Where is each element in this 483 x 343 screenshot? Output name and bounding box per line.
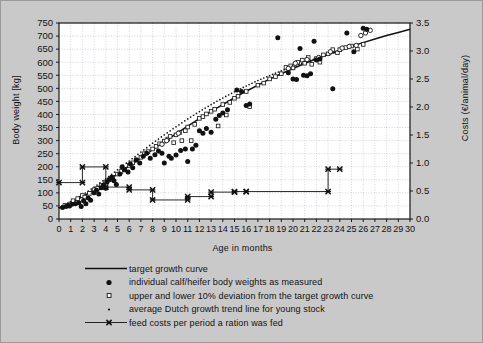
x-tick-label: 12	[194, 224, 204, 234]
data-point-deviation	[180, 139, 184, 143]
legend-item: target growth curve	[83, 262, 413, 276]
data-point-deviation	[361, 43, 365, 47]
y-tick-label-left: 350	[37, 122, 53, 133]
data-point-measured	[204, 126, 209, 131]
data-point-trend	[161, 136, 163, 138]
x-tick-label: 6	[127, 224, 132, 234]
x-tick-label: 9	[162, 224, 167, 234]
legend-label: target growth curve	[129, 264, 208, 274]
y-tick-label-right: 3.5	[416, 17, 429, 28]
data-point-measured	[330, 86, 335, 91]
data-point-deviation	[154, 145, 158, 149]
data-point-measured	[148, 156, 153, 161]
data-point-trend	[242, 87, 244, 89]
data-point-trend	[278, 71, 280, 73]
data-point-measured	[298, 46, 303, 51]
data-point-trend	[187, 118, 189, 120]
x-tick-label: 30	[405, 224, 415, 234]
data-point-trend	[143, 149, 145, 151]
y-tick-label-right: 1.5	[416, 129, 429, 140]
x-tick-label: 24	[335, 224, 345, 234]
data-point-trend	[155, 140, 157, 142]
data-point-measured	[130, 165, 135, 170]
data-point-measured	[185, 159, 190, 164]
data-point-measured	[117, 172, 122, 177]
data-point-trend	[102, 180, 104, 182]
x-tick-label: 15	[229, 224, 239, 234]
data-point-deviation	[322, 53, 326, 57]
data-point-trend	[193, 114, 195, 116]
data-point-measured	[88, 198, 93, 203]
x-tick-label: 27	[370, 224, 380, 234]
data-point-deviation	[244, 90, 248, 94]
data-point-measured	[114, 182, 119, 187]
x-tick-label: 8	[150, 224, 155, 234]
data-point-deviation	[359, 33, 363, 37]
data-point-trend	[228, 94, 230, 96]
x-tick-label: 10	[171, 224, 181, 234]
legend-label: feed costs per period a ration was fed	[129, 318, 283, 328]
chart-figure: 0501001502002503003504004505005506006507…	[0, 0, 483, 343]
y-tick-label-right: 2.5	[416, 73, 429, 84]
data-point-trend	[84, 192, 86, 194]
data-point-trend	[254, 81, 256, 83]
data-point-trend	[137, 153, 139, 155]
x-tick-label: 0	[56, 224, 61, 234]
x-tick-label: 23	[323, 224, 333, 234]
x-tick-label: 13	[206, 224, 216, 234]
data-point-deviation	[293, 61, 297, 65]
data-point-measured	[317, 57, 322, 62]
data-point-measured	[312, 39, 317, 44]
x-tick-label: 5	[115, 224, 120, 234]
data-point-trend	[275, 72, 277, 74]
data-point-trend	[201, 109, 203, 111]
data-point-measured	[209, 130, 214, 135]
data-point-trend	[280, 70, 282, 72]
y-tick-label-left: 500	[37, 83, 53, 94]
x-tick-label: 2	[80, 224, 85, 234]
y-tick-label-left: 600	[37, 57, 53, 68]
data-point-trend	[210, 104, 212, 106]
data-point-deviation	[216, 124, 220, 128]
data-point-trend	[245, 85, 247, 87]
data-point-trend	[196, 113, 198, 115]
data-point-trend	[114, 171, 116, 173]
data-point-measured	[247, 102, 252, 107]
data-point-measured	[344, 30, 349, 35]
data-point-trend	[140, 151, 142, 153]
x-axis-title: Age in months	[1, 243, 483, 253]
data-point-trend	[181, 122, 183, 124]
x-tick-label: 29	[393, 224, 403, 234]
data-point-trend	[134, 156, 136, 158]
data-point-trend	[146, 147, 148, 149]
y-tick-label-left: 400	[37, 109, 53, 120]
data-point-measured	[178, 148, 183, 153]
y-tick-label-left: 650	[37, 43, 53, 54]
data-point-trend	[125, 162, 127, 164]
data-point-deviation	[186, 125, 190, 129]
legend-item: individual calf/heifer body weights as m…	[83, 276, 413, 290]
x-tick-label: 25	[346, 224, 356, 234]
data-point-deviation	[168, 135, 172, 139]
data-point-measured	[213, 117, 218, 122]
data-point-measured	[96, 191, 101, 196]
y-axis-left-title: Body weight [kg]	[11, 62, 21, 158]
data-point-trend	[158, 138, 160, 140]
data-point-measured	[225, 107, 230, 112]
data-point-deviation	[209, 110, 213, 114]
y-tick-label-left: 200	[37, 161, 53, 172]
data-point-deviation	[172, 141, 176, 145]
data-point-deviation	[280, 72, 284, 76]
data-point-trend	[225, 96, 227, 98]
data-point-deviation	[151, 147, 155, 151]
data-point-deviation	[198, 117, 202, 121]
y-tick-label-left: 550	[37, 70, 53, 81]
data-point-measured	[193, 143, 198, 148]
y-tick-label-right: 2.0	[416, 101, 429, 112]
data-point-trend	[301, 62, 303, 64]
y-axis-right-title: Costs (€/animal/day)	[460, 38, 470, 158]
data-point-trend	[263, 77, 265, 79]
y-tick-label-left: 250	[37, 148, 53, 159]
y-tick-label-left: 300	[37, 135, 53, 146]
x-tick-label: 1	[68, 224, 73, 234]
